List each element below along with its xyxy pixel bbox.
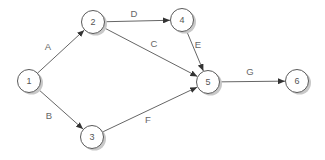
- node-label-4: 4: [179, 15, 184, 25]
- node-label-1: 1: [26, 76, 31, 86]
- graph-diagram: ABDCEFG123456: [0, 0, 325, 160]
- node-label-6: 6: [294, 76, 299, 86]
- edge-D: [104, 20, 170, 21]
- edge-B: [38, 89, 83, 129]
- edge-label-B: B: [46, 110, 52, 121]
- edge-label-A: A: [45, 41, 52, 52]
- node-label-5: 5: [205, 77, 210, 87]
- edge-G: [219, 81, 285, 82]
- edge-label-G: G: [246, 66, 253, 77]
- diagram-canvas: ABDCEFG123456: [0, 0, 325, 160]
- edge-E: [186, 31, 203, 71]
- edge-label-C: C: [151, 38, 158, 49]
- node-label-3: 3: [89, 132, 94, 142]
- edge-C: [103, 27, 197, 76]
- edge-F: [102, 87, 197, 132]
- edge-label-D: D: [131, 8, 138, 19]
- edge-label-F: F: [145, 114, 151, 125]
- edge-label-E: E: [195, 39, 201, 50]
- node-label-2: 2: [90, 17, 95, 27]
